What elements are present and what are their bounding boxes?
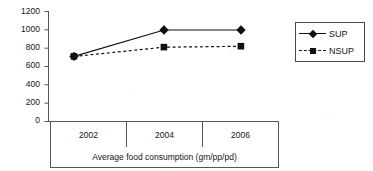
x-axis-table: 2002 2004 2006 Average food consumption … [50, 122, 279, 168]
y-tick-marks [45, 12, 49, 122]
legend-item-nsup: NSUP [299, 43, 354, 59]
chart-legend: SUP NSUP [295, 22, 365, 62]
series-sup-point-2004 [159, 25, 168, 34]
series-nsup-point-2006 [238, 43, 245, 50]
legend-label-sup: SUP [329, 29, 348, 39]
line-chart: 1200 1000 800 600 400 200 0 [0, 0, 373, 171]
x-axis-cell-2004: 2004 [127, 122, 203, 147]
legend-label-nsup: NSUP [329, 46, 354, 56]
series-nsup-point-2004 [161, 44, 168, 51]
x-axis-caption-row: Average food consumption (gm/pp/pd) [51, 147, 278, 167]
legend-marker-square-icon [299, 46, 326, 56]
x-axis-cell-2006: 2006 [203, 122, 278, 147]
series-nsup [71, 43, 245, 60]
series-sup-point-2006 [236, 25, 245, 34]
legend-marker-diamond-icon [299, 29, 326, 39]
x-tick-label-2002: 2002 [79, 130, 98, 140]
x-axis-title: Average food consumption (gm/pp/pd) [92, 152, 236, 162]
x-tick-label-2004: 2004 [155, 130, 174, 140]
series-sup-line [74, 30, 241, 56]
x-tick-label-2006: 2006 [231, 130, 250, 140]
legend-item-sup: SUP [299, 26, 348, 42]
x-axis-category-row: 2002 2004 2006 [51, 122, 278, 147]
series-nsup-line [74, 46, 241, 56]
series-sup [69, 25, 245, 61]
x-axis-cell-2002: 2002 [51, 122, 127, 147]
